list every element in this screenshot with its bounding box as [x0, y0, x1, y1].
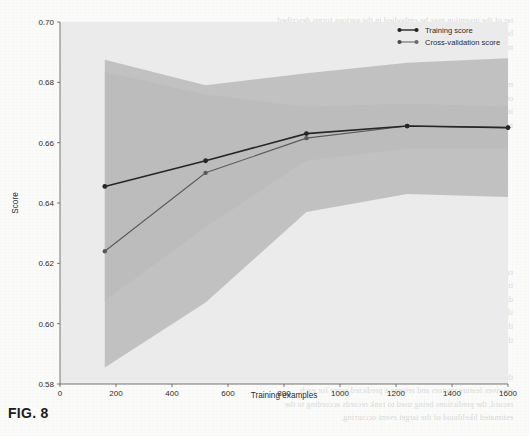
training-score-point — [304, 131, 309, 136]
x-tick-label: 1600 — [499, 389, 517, 398]
training-score-point — [506, 125, 511, 130]
y-tick-label: 0.58 — [38, 380, 54, 389]
scanned-page: ter of the invention may be embodied in … — [0, 0, 529, 436]
training-score-point — [102, 184, 107, 189]
x-axis-title: Training examples — [251, 391, 318, 400]
x-tick-label: 200 — [109, 389, 123, 398]
y-tick-label: 0.62 — [38, 259, 54, 268]
y-axis-title: Score — [11, 192, 20, 214]
figure-caption: FIG. 8 — [8, 405, 49, 421]
learning-curve-figure: 02004006008001000120014001600 0.580.600.… — [0, 0, 529, 400]
x-tick-label: 0 — [58, 389, 63, 398]
y-axis-ticks: 0.580.600.620.640.660.680.70 — [38, 18, 60, 389]
legend-marker-cross-validation-score-end — [414, 40, 418, 44]
x-tick-label: 1000 — [331, 389, 349, 398]
x-tick-label: 1400 — [443, 389, 461, 398]
legend-marker-training-score-end — [414, 28, 418, 32]
cross-validation-score-point — [304, 136, 308, 140]
x-tick-label: 600 — [221, 389, 235, 398]
cross-validation-score-point — [103, 249, 107, 253]
legend-label-cross-validation-score: Cross-validation score — [425, 38, 500, 47]
x-tick-label: 400 — [165, 389, 179, 398]
legend-label-training-score: Training score — [425, 26, 473, 35]
legend-marker-training-score-start — [397, 28, 401, 32]
y-tick-label: 0.64 — [38, 199, 54, 208]
training-score-point — [405, 124, 410, 129]
y-tick-label: 0.60 — [38, 320, 54, 329]
y-tick-label: 0.68 — [38, 78, 54, 87]
learning-curve-chart: 02004006008001000120014001600 0.580.600.… — [0, 0, 529, 400]
y-tick-label: 0.70 — [38, 18, 54, 27]
legend-marker-cross-validation-score-start — [397, 40, 401, 44]
y-tick-label: 0.66 — [38, 139, 54, 148]
cross-validation-score-point — [203, 171, 207, 175]
x-tick-label: 1200 — [387, 389, 405, 398]
training-score-point — [203, 158, 208, 163]
